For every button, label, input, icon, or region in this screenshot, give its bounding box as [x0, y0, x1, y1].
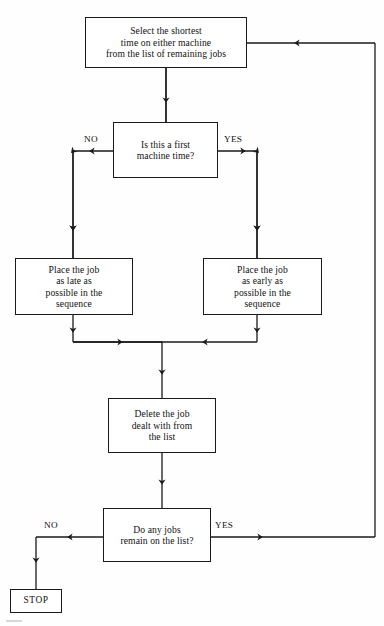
node-delete-job-from-list: Delete the job dealt with from the list: [108, 398, 216, 453]
node-is-first-machine-time-label: Is this a first machine time?: [134, 139, 198, 162]
node-place-job-as-late: Place the job as late as possible in the…: [15, 258, 133, 315]
edge-label-first-machine-no: NO: [84, 134, 98, 144]
node-stop: STOP: [10, 589, 62, 613]
node-place-job-as-late-label: Place the job as late as possible in the…: [43, 264, 106, 310]
node-place-job-as-early: Place the job as early as possible in th…: [203, 258, 322, 315]
node-stop-label: STOP: [20, 595, 51, 606]
node-do-any-jobs-remain-label: Do any jobs remain on the list?: [117, 524, 196, 547]
node-delete-job-from-list-label: Delete the job dealt with from the list: [129, 408, 196, 442]
edge-first-no: [73, 151, 113, 258]
node-place-job-as-early-label: Place the job as early as possible in th…: [231, 264, 294, 310]
node-is-first-machine-time: Is this a first machine time?: [113, 122, 218, 178]
edge-label-first-machine-yes: YES: [224, 134, 242, 144]
node-select-shortest-time-label: Select the shortest time on either machi…: [103, 25, 229, 59]
edge-label-jobs-remain-no: NO: [44, 520, 58, 530]
edge-first-yes: [218, 151, 257, 258]
node-do-any-jobs-remain: Do any jobs remain on the list?: [103, 508, 211, 562]
edge-label-jobs-remain-yes: YES: [215, 520, 233, 530]
flowchart-canvas: Select the shortest time on either machi…: [0, 0, 384, 626]
scan-artifact: [6, 620, 22, 622]
node-select-shortest-time: Select the shortest time on either machi…: [85, 17, 247, 68]
